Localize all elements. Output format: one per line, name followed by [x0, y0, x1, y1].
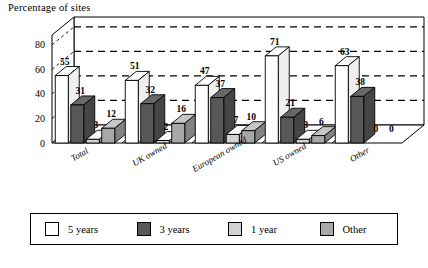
bar-3-years-US-owned [281, 117, 294, 143]
y-axis-tick: 60 [35, 64, 45, 75]
bar-value-label: 3 [93, 120, 98, 130]
legend-label-3: Other [343, 224, 367, 235]
bar-5-years-Total [55, 76, 68, 144]
bar-Other-US-owned [312, 136, 325, 143]
bar-Other-UK-owned [172, 123, 185, 143]
bar-value-label: 51 [130, 61, 140, 71]
x-axis-category-label: Other [348, 145, 372, 164]
bar-value-label: 55 [60, 57, 70, 67]
bar-3-years-Total [71, 105, 84, 143]
bar-value-label: 47 [200, 66, 210, 76]
bar-5-years-US-owned [265, 56, 278, 143]
y-axis-tick: 20 [35, 113, 45, 124]
legend-item-0: 5 years [31, 222, 123, 236]
chart-legend: 5 years 3 years 1 year Other [30, 213, 398, 245]
bar-5-years-UK-owned [125, 80, 138, 143]
legend-label-1: 3 years [160, 224, 190, 235]
legend-swatch-1-year [228, 222, 242, 236]
legend-label-2: 1 year [251, 224, 277, 235]
bar-3-years-European-owned [211, 98, 224, 143]
x-axis-category-label: Total [69, 145, 90, 163]
legend-swatch-3-years [137, 222, 151, 236]
bar-value-label: 31 [76, 86, 86, 96]
bar-value-label: 10 [247, 112, 257, 122]
chart-root: Percentage of sites 0204060805531312Tota… [0, 0, 428, 268]
bar-value-label: 7 [233, 115, 238, 125]
bar-Other-Total [102, 128, 115, 143]
legend-item-3: Other [306, 222, 398, 236]
bar-3-years-UK-owned [141, 104, 154, 143]
legend-item-2: 1 year [214, 222, 306, 236]
bar-3-years-Other [351, 96, 364, 143]
bar-value-label: 12 [107, 109, 117, 119]
bar-value-label: 3 [303, 120, 308, 130]
bar-value-label: 21 [286, 98, 296, 108]
y-axis-tick: 40 [35, 88, 45, 99]
bar-value-label: 16 [177, 104, 187, 114]
legend-swatch-other [320, 222, 334, 236]
x-axis-category-label: UK owned [130, 140, 169, 168]
legend-label-0: 5 years [68, 224, 98, 235]
bar-value-label: 71 [270, 37, 280, 47]
footnote-text [33, 256, 333, 266]
bar-value-label: 37 [216, 79, 226, 89]
y-axis-tick: 80 [35, 39, 45, 50]
legend-swatch-5-years [45, 222, 59, 236]
bar-side-face [364, 87, 375, 143]
bar-5-years-Other [335, 66, 348, 143]
bar-1-year-Total [86, 139, 99, 143]
bar-value-label: 0 [373, 124, 378, 134]
bar-value-label: 0 [389, 124, 394, 134]
bar-value-label: 63 [340, 47, 350, 57]
bar-value-label: 2 [163, 122, 168, 132]
bar-5-years-European-owned [195, 85, 208, 143]
bar-value-label: 38 [356, 77, 366, 87]
bar-chart-plot: 0204060805531312Total5132216UK owned4737… [0, 0, 428, 210]
legend-item-1: 3 years [123, 222, 215, 236]
bar-value-label: 6 [319, 117, 324, 127]
x-axis-category-label: US owned [271, 141, 308, 168]
bar-value-label: 32 [146, 85, 156, 95]
y-axis-tick: 0 [40, 138, 45, 149]
